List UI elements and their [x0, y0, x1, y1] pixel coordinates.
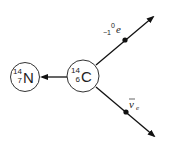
electron-mass-number: 0 [111, 22, 115, 29]
electron-label: 0 −1 e [103, 22, 123, 40]
nitrogen-mass-number: 14 [12, 67, 22, 76]
nitrogen-symbol: N [23, 69, 34, 86]
antineutrino-symbol: ν [129, 98, 134, 110]
carbon-mass-number: 14 [70, 66, 80, 75]
antineutrino-label: ν e [128, 98, 144, 114]
electron-symbol: e [116, 23, 121, 35]
electron-dot [122, 37, 127, 42]
carbon-label: 14 6 C [70, 66, 96, 86]
carbon-atomic-number: 6 [70, 75, 80, 84]
carbon-symbol: C [81, 68, 92, 85]
antineutrino-subscript: e [136, 104, 139, 112]
nitrogen-atomic-number: 7 [12, 76, 22, 85]
electron-charge: −1 [103, 29, 111, 36]
beta-decay-diagram: 14 7 N 14 6 C 0 −1 e ν e [0, 0, 178, 149]
nitrogen-label: 14 7 N [12, 67, 38, 87]
